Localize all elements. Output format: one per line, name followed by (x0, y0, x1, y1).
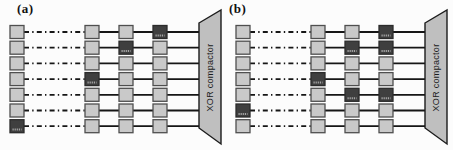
scan-cell-dark (119, 41, 133, 54)
scan-cell-dark (10, 120, 24, 133)
scan-cell (345, 120, 359, 133)
scan-cell-dark (311, 73, 325, 86)
scan-cell (379, 57, 393, 70)
scan-cell (345, 26, 359, 39)
scan-cell (85, 120, 99, 133)
scan-cell (85, 57, 99, 70)
panel-a (10, 10, 221, 144)
scan-cell-dark (379, 88, 393, 101)
scan-cell-dark (236, 104, 250, 117)
scan-cell (119, 73, 133, 86)
scan-cell (345, 104, 359, 117)
scan-cell (10, 88, 24, 101)
scan-cell (236, 73, 250, 86)
scan-cell (119, 57, 133, 70)
scan-cell (379, 104, 393, 117)
scan-cell-dark (345, 41, 359, 54)
scan-cell (10, 73, 24, 86)
scan-cell (311, 104, 325, 117)
scan-cell-dark (153, 26, 167, 39)
scan-cell (153, 41, 167, 54)
panel-a-label: (a) (17, 1, 34, 17)
scan-cell (85, 26, 99, 39)
scan-cell (236, 88, 250, 101)
scan-cell (379, 73, 393, 86)
scan-cell-dark (379, 26, 393, 39)
scan-cell (236, 57, 250, 70)
scan-cell (379, 120, 393, 133)
scan-cell (85, 41, 99, 54)
scan-cell (85, 88, 99, 101)
scan-cell (311, 41, 325, 54)
scan-cell (311, 88, 325, 101)
scan-cell (236, 120, 250, 133)
scan-chain-diagram (0, 0, 453, 150)
scan-cell (10, 57, 24, 70)
scan-cell (153, 57, 167, 70)
scan-cell-dark (85, 73, 99, 86)
scan-cell (119, 26, 133, 39)
scan-cell (119, 120, 133, 133)
scan-cell (153, 73, 167, 86)
scan-cell (153, 120, 167, 133)
scan-cell (10, 104, 24, 117)
panel-b (236, 10, 447, 144)
scan-cell (236, 26, 250, 39)
panel-b-label: (b) (229, 1, 246, 17)
scan-cell-dark (379, 41, 393, 54)
scan-cell (10, 41, 24, 54)
scan-cell (153, 88, 167, 101)
scan-cell (236, 41, 250, 54)
scan-cell (311, 26, 325, 39)
xor-compactor-shape (199, 10, 221, 144)
scan-cell (119, 88, 133, 101)
scan-cell (153, 104, 167, 117)
scan-cell (345, 57, 359, 70)
scan-cell-dark (345, 88, 359, 101)
scan-cell (311, 57, 325, 70)
scan-cell (10, 26, 24, 39)
scan-cell (119, 104, 133, 117)
xor-compactor-shape (425, 10, 447, 144)
figure-canvas: (a) (b) XOR compactor XOR compactor (0, 0, 453, 150)
scan-cell (85, 104, 99, 117)
scan-cell (311, 120, 325, 133)
scan-cell (345, 73, 359, 86)
